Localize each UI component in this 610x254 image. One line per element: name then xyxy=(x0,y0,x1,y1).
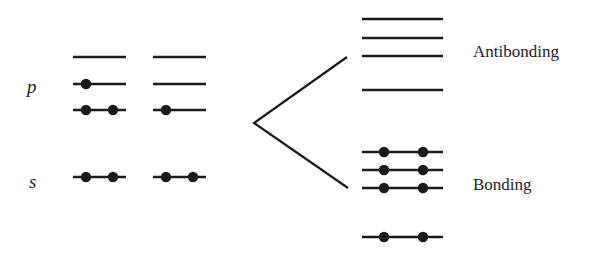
atom2-p-lower-level xyxy=(153,105,206,115)
atom1-s-level xyxy=(73,172,126,182)
label-bonding: Bonding xyxy=(473,175,532,194)
electron-dot xyxy=(81,79,91,89)
atom1-p-lower-level xyxy=(73,105,126,115)
electron-dot xyxy=(108,172,118,182)
electron-dot xyxy=(379,232,389,242)
bonding-level-4 xyxy=(362,232,443,242)
bonding-level-1 xyxy=(362,147,443,157)
electron-dot xyxy=(418,183,428,193)
electron-dot xyxy=(379,147,389,157)
atom1-p-middle-level xyxy=(73,79,126,89)
electron-dot xyxy=(418,165,428,175)
electron-dot xyxy=(81,172,91,182)
electron-dot xyxy=(379,183,389,193)
electron-dot xyxy=(108,105,118,115)
electron-dot xyxy=(161,172,171,182)
electron-dot xyxy=(379,165,389,175)
label-antibonding: Antibonding xyxy=(473,42,559,61)
bonding-level-2 xyxy=(362,165,443,175)
electron-dot xyxy=(418,232,428,242)
atom2-s-level xyxy=(153,172,206,182)
band-splitting-lines xyxy=(254,57,348,188)
electron-dot xyxy=(161,105,171,115)
atomic-orbital-levels xyxy=(73,57,206,182)
label-p-orbital: p xyxy=(25,76,37,97)
energy-level-diagram: p s Antibonding Bonding xyxy=(0,0,610,254)
bonding-level-3 xyxy=(362,183,443,193)
splitting-wedge xyxy=(254,57,348,188)
label-s-orbital: s xyxy=(29,171,36,192)
electron-dot xyxy=(418,147,428,157)
electron-dot xyxy=(188,172,198,182)
molecular-orbital-levels xyxy=(362,19,443,242)
electron-dot xyxy=(81,105,91,115)
